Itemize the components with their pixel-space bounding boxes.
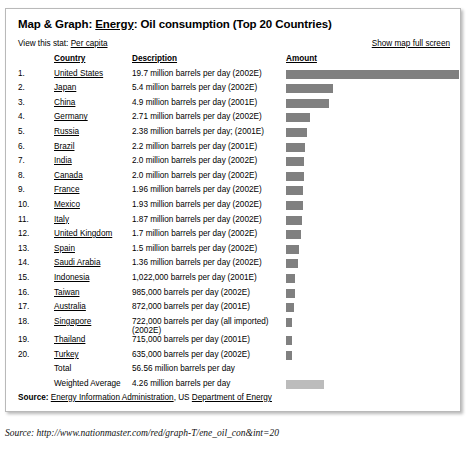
country-link[interactable]: United States bbox=[54, 69, 103, 78]
row-country[interactable]: Spain bbox=[54, 244, 132, 259]
table-row: 16.Taiwan985,000 barrels per day (2002E) bbox=[6, 288, 460, 303]
row-description: 1.87 million barrels per day (2002E) bbox=[132, 215, 286, 230]
row-country[interactable]: Brazil bbox=[54, 142, 132, 157]
country-link[interactable]: Spain bbox=[54, 244, 75, 253]
country-link[interactable]: India bbox=[54, 156, 72, 165]
row-country[interactable]: Singapore bbox=[54, 317, 132, 336]
row-rank: 2. bbox=[6, 83, 54, 98]
country-link[interactable]: Indonesia bbox=[54, 273, 90, 282]
country-link[interactable]: Germany bbox=[54, 112, 88, 121]
country-link[interactable]: China bbox=[54, 98, 75, 107]
table-row: 6.Brazil2.2 million barrels per day (200… bbox=[6, 142, 460, 157]
country-link[interactable]: Italy bbox=[54, 215, 69, 224]
row-rank: 19. bbox=[6, 335, 54, 350]
row-country[interactable]: India bbox=[54, 156, 132, 171]
amount-bar bbox=[286, 318, 292, 327]
source-line: Source: Energy Information Administratio… bbox=[18, 393, 272, 402]
row-country[interactable]: France bbox=[54, 185, 132, 200]
row-rank: 3. bbox=[6, 98, 54, 113]
country-link[interactable]: Mexico bbox=[54, 200, 80, 209]
row-rank: 16. bbox=[6, 288, 54, 303]
row-country[interactable]: Italy bbox=[54, 215, 132, 230]
country-link[interactable]: Japan bbox=[54, 83, 76, 92]
row-country[interactable]: Saudi Arabia bbox=[54, 258, 132, 273]
country-link[interactable]: Russia bbox=[54, 127, 79, 136]
country-link[interactable]: Canada bbox=[54, 171, 83, 180]
table-row: 17.Australia872,000 barrels per day (200… bbox=[6, 302, 460, 317]
country-link[interactable]: Brazil bbox=[54, 142, 74, 151]
table-row: 3.China4.9 million barrels per day (2001… bbox=[6, 98, 460, 113]
row-amount-bar-cell bbox=[286, 335, 460, 350]
header-rank bbox=[6, 54, 54, 69]
table-body: 1.United States19.7 million barrels per … bbox=[6, 69, 460, 394]
row-description: 2.38 million barrels per day; (2001E) bbox=[132, 127, 286, 142]
page-title: Map & Graph: Energy: Oil consumption (To… bbox=[18, 18, 332, 30]
row-description: 19.7 million barrels per day (2002E) bbox=[132, 69, 286, 84]
row-amount-bar-cell bbox=[286, 350, 460, 365]
map-graph-panel: Map & Graph: Energy: Oil consumption (To… bbox=[5, 8, 461, 412]
amount-bar bbox=[286, 99, 329, 108]
row-country[interactable]: Mexico bbox=[54, 200, 132, 215]
row-description: 1,022,000 barrels per day (2001E) bbox=[132, 273, 286, 288]
source-label: Source: bbox=[18, 393, 51, 402]
row-amount-bar-cell bbox=[286, 156, 460, 171]
amount-bar bbox=[286, 157, 304, 166]
row-amount-bar-cell bbox=[286, 317, 460, 336]
table-row: 7.India2.0 million barrels per day (2002… bbox=[6, 156, 460, 171]
country-link[interactable]: Singapore bbox=[54, 317, 91, 326]
row-country[interactable]: Canada bbox=[54, 171, 132, 186]
row-country[interactable]: Russia bbox=[54, 127, 132, 142]
row-country[interactable]: China bbox=[54, 98, 132, 113]
row-amount-bar-cell bbox=[286, 379, 460, 394]
show-map-full-screen-link[interactable]: Show map full screen bbox=[372, 39, 450, 48]
country-link[interactable]: Australia bbox=[54, 302, 86, 311]
view-this-stat-label: View this stat: bbox=[18, 39, 71, 48]
row-country[interactable]: United States bbox=[54, 69, 132, 84]
row-amount-bar-cell bbox=[286, 273, 460, 288]
amount-bar bbox=[286, 113, 310, 122]
row-country[interactable]: United Kingdom bbox=[54, 229, 132, 244]
country-link[interactable]: Saudi Arabia bbox=[54, 258, 100, 267]
source-link-eia[interactable]: Energy Information Administration bbox=[51, 393, 174, 402]
title-prefix: Map & Graph: bbox=[18, 18, 95, 30]
row-rank: 17. bbox=[6, 302, 54, 317]
per-capita-link[interactable]: Per capita bbox=[71, 39, 108, 48]
table-row: 8.Canada2.0 million barrels per day (200… bbox=[6, 171, 460, 186]
row-country[interactable]: Indonesia bbox=[54, 273, 132, 288]
table-row: 13.Spain1.5 million barrels per day (200… bbox=[6, 244, 460, 259]
row-description: 985,000 barrels per day (2002E) bbox=[132, 288, 286, 303]
row-country[interactable]: Japan bbox=[54, 83, 132, 98]
row-country[interactable]: Australia bbox=[54, 302, 132, 317]
source-link-doe[interactable]: Department of Energy bbox=[192, 393, 272, 402]
row-amount-bar-cell bbox=[286, 127, 460, 142]
table-row: 1.United States19.7 million barrels per … bbox=[6, 69, 460, 84]
row-amount-bar-cell bbox=[286, 364, 460, 379]
table-row: 2.Japan5.4 million barrels per day (2002… bbox=[6, 83, 460, 98]
amount-bar bbox=[286, 380, 324, 389]
row-description: 4.9 million barrels per day (2001E) bbox=[132, 98, 286, 113]
table-row: 9.France1.96 million barrels per day (20… bbox=[6, 185, 460, 200]
row-country[interactable]: Germany bbox=[54, 112, 132, 127]
country-link[interactable]: Turkey bbox=[54, 350, 79, 359]
country-link[interactable]: France bbox=[54, 185, 79, 194]
country-link[interactable]: Thailand bbox=[54, 335, 85, 344]
row-country[interactable]: Thailand bbox=[54, 335, 132, 350]
country-link[interactable]: Taiwan bbox=[54, 288, 80, 297]
title-energy-link[interactable]: Energy bbox=[95, 18, 133, 30]
row-description: 2.0 million barrels per day (2002E) bbox=[132, 156, 286, 171]
row-country[interactable]: Taiwan bbox=[54, 288, 132, 303]
row-description: 56.56 million barrels per day bbox=[132, 364, 286, 379]
source-middle: , US bbox=[174, 393, 192, 402]
country-link[interactable]: United Kingdom bbox=[54, 229, 112, 238]
row-rank: 9. bbox=[6, 185, 54, 200]
row-rank: 6. bbox=[6, 142, 54, 157]
row-rank: 15. bbox=[6, 273, 54, 288]
row-description: 2.0 million barrels per day (2002E) bbox=[132, 171, 286, 186]
amount-bar bbox=[286, 259, 298, 268]
row-amount-bar-cell bbox=[286, 258, 460, 273]
row-description: 872,000 barrels per day (2001E) bbox=[132, 302, 286, 317]
table-row: Total56.56 million barrels per day bbox=[6, 364, 460, 379]
row-amount-bar-cell bbox=[286, 302, 460, 317]
table-row: 12.United Kingdom1.7 million barrels per… bbox=[6, 229, 460, 244]
row-country[interactable]: Turkey bbox=[54, 350, 132, 365]
